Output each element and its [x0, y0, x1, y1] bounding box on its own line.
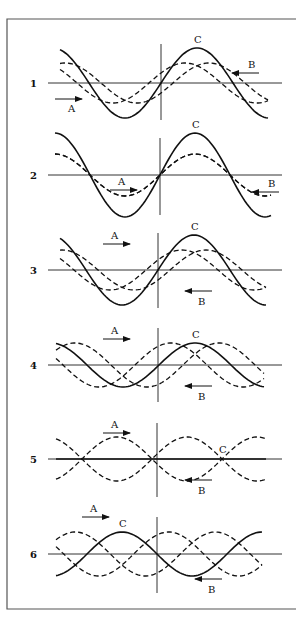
- panel-number: 2: [30, 170, 37, 181]
- panel-number: 1: [30, 78, 37, 89]
- label-c: C: [119, 518, 127, 529]
- label-c: C: [192, 119, 200, 130]
- label-a: A: [110, 419, 119, 430]
- label-a: A: [89, 503, 98, 514]
- wave-superposition-figure: 1CAB2CAB3CAB4CAB5CAB6CAB: [0, 0, 296, 619]
- panel-number: 3: [30, 265, 37, 276]
- label-b: B: [208, 584, 215, 595]
- panel-number: 5: [30, 454, 37, 465]
- panel-number: 4: [30, 360, 37, 371]
- label-b: B: [198, 485, 205, 496]
- label-b: B: [198, 296, 205, 307]
- label-a: A: [110, 230, 119, 241]
- label-c: C: [191, 221, 199, 232]
- panel-3: 3CAB: [30, 221, 282, 308]
- label-a: A: [67, 103, 76, 114]
- label-c: C: [192, 329, 200, 340]
- label-b: B: [248, 59, 255, 70]
- panel-4: 4CAB: [30, 325, 282, 402]
- label-c: C: [194, 34, 202, 45]
- figure-frame: [7, 19, 296, 609]
- panel-2: 2CAB: [30, 119, 282, 217]
- label-c: C: [219, 444, 227, 455]
- label-b: B: [268, 178, 275, 189]
- label-b: B: [198, 391, 205, 402]
- panel-5: 5CAB: [30, 419, 282, 497]
- panel-1: 1CAB: [30, 34, 282, 120]
- panel-number: 6: [30, 549, 37, 560]
- panel-6: 6CAB: [30, 503, 282, 595]
- label-a: A: [110, 325, 119, 336]
- label-a: A: [117, 176, 126, 187]
